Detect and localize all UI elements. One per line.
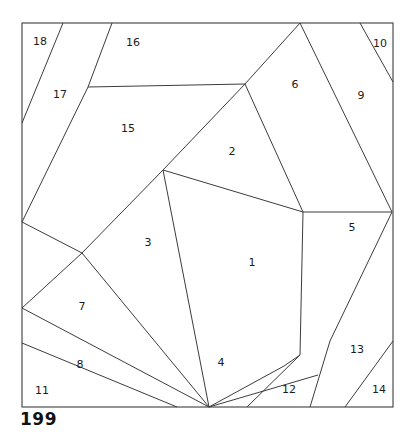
region-label-5: 5 — [349, 221, 356, 234]
region-label-13: 13 — [350, 343, 364, 356]
region-label-12: 12 — [282, 383, 296, 396]
region-label-3: 3 — [145, 236, 152, 249]
figure-frame — [22, 23, 393, 407]
region-label-2: 2 — [229, 145, 236, 158]
figure-root: 123456789101112131415161718 199 — [0, 0, 415, 435]
polygon-partition-figure: 123456789101112131415161718 — [0, 0, 415, 435]
region-label-10: 10 — [373, 37, 387, 50]
region-label-8: 8 — [77, 358, 84, 371]
region-label-15: 15 — [121, 122, 135, 135]
region-label-16: 16 — [126, 36, 140, 49]
region-label-14: 14 — [372, 383, 386, 396]
region-label-18: 18 — [33, 35, 47, 48]
region-label-4: 4 — [218, 356, 225, 369]
region-label-1: 1 — [249, 256, 256, 269]
figure-caption: 199 — [20, 409, 57, 429]
region-label-9: 9 — [358, 89, 365, 102]
region-label-6: 6 — [292, 78, 299, 91]
region-label-17: 17 — [53, 88, 67, 101]
region-label-7: 7 — [79, 300, 86, 313]
region-label-11: 11 — [35, 384, 49, 397]
